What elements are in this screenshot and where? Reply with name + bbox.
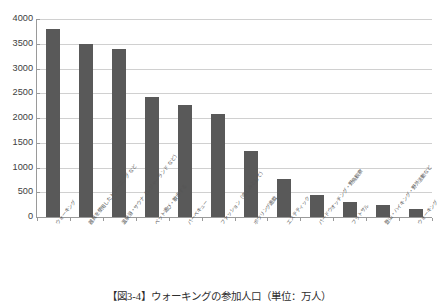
x-axis-tick — [70, 218, 71, 221]
bar — [79, 44, 93, 217]
chart-figure: 05001000150020002500300035004000 ウォーキング器… — [0, 0, 438, 303]
bar-slot — [300, 19, 333, 217]
y-axis-tick-label: 3500 — [13, 39, 33, 48]
x-axis-tick — [37, 218, 38, 221]
y-axis-labels: 05001000150020002500300035004000 — [0, 0, 33, 238]
x-axis-tick — [432, 218, 433, 221]
bar-slot — [103, 19, 136, 217]
bar-slot — [136, 19, 169, 217]
bar-slot — [202, 19, 235, 217]
y-axis-tick-label: 3000 — [13, 64, 33, 73]
x-axis-tick — [169, 218, 170, 221]
x-axis-ticks — [37, 218, 432, 222]
bar — [310, 195, 324, 217]
x-axis-tick — [136, 218, 137, 221]
x-axis-tick — [235, 218, 236, 221]
bar-slot — [235, 19, 268, 217]
bar-slot — [169, 19, 202, 217]
y-axis-tick-label: 0 — [28, 212, 33, 221]
y-axis-tick-label: 1000 — [13, 163, 33, 172]
y-axis-tick-label: 1500 — [13, 138, 33, 147]
x-axis-tick — [202, 218, 203, 221]
bar — [145, 97, 159, 217]
x-axis-tick — [267, 218, 268, 221]
y-axis-tick-label: 2000 — [13, 113, 33, 122]
bar-slot — [333, 19, 366, 217]
x-axis-tick — [103, 218, 104, 221]
bar — [46, 29, 60, 217]
x-axis-tick — [333, 218, 334, 221]
y-axis-tick-label: 4000 — [13, 14, 33, 23]
y-axis-tick-label: 2500 — [13, 88, 33, 97]
bar — [112, 49, 126, 217]
bar — [343, 202, 357, 217]
bar-slot — [399, 19, 432, 217]
x-axis-tick — [366, 218, 367, 221]
x-axis-tick — [399, 218, 400, 221]
bar — [244, 151, 258, 217]
x-axis-tick — [300, 218, 301, 221]
bar-slot — [267, 19, 300, 217]
bar — [376, 205, 390, 217]
figure-caption: 【図3-4】ウォーキングの参加人口（単位：万人） — [0, 288, 438, 303]
bar-series — [37, 19, 432, 217]
bar — [178, 105, 192, 217]
y-axis-tick-label: 500 — [18, 187, 33, 196]
bar — [277, 179, 291, 217]
bar-slot — [366, 19, 399, 217]
bar — [211, 114, 225, 217]
bar-slot — [70, 19, 103, 217]
bar — [409, 209, 423, 217]
bar-slot — [37, 19, 70, 217]
